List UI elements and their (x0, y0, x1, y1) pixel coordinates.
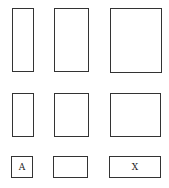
box-r1-wide (110, 8, 162, 73)
box-label-a: A (19, 162, 26, 172)
box-r3-wide: X (109, 156, 161, 178)
box-r3-narrow: A (11, 156, 33, 178)
box-r1-medium (54, 8, 89, 72)
box-r2-narrow (12, 93, 34, 137)
box-label-x: X (132, 162, 138, 172)
box-r3-medium (53, 156, 88, 178)
box-r1-narrow (12, 8, 34, 72)
box-r2-wide (110, 93, 161, 137)
box-r2-medium (54, 93, 89, 137)
